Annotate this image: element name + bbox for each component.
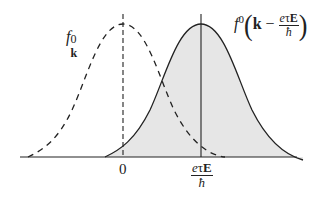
- superscript: 0: [70, 32, 76, 47]
- hbar: ħ: [191, 176, 213, 190]
- hbar: ħ: [279, 26, 299, 39]
- shift-fraction: eτEħ: [279, 12, 299, 39]
- field-E: E: [290, 11, 298, 25]
- shifted-distribution-fill: [105, 24, 303, 160]
- minus-sign: −: [262, 15, 279, 32]
- tick-label-shift: eτEħ: [191, 161, 213, 190]
- equilibrium-distribution-label: f0k: [66, 28, 80, 46]
- left-paren: (: [244, 11, 253, 40]
- field-E: E: [203, 160, 212, 175]
- subscript-k: k: [70, 46, 77, 61]
- right-paren: ): [299, 11, 308, 40]
- tick-label-zero: 0: [119, 161, 127, 178]
- shifted-distribution-label: f0(k − eτEħ): [234, 6, 307, 39]
- k-vector: k: [253, 15, 262, 32]
